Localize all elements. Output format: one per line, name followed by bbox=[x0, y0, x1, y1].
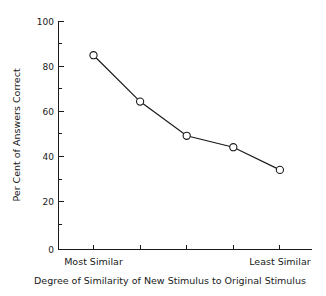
x-tick-label-most-similar: Most Similar bbox=[64, 256, 123, 267]
y-tick-label-20: 20 bbox=[43, 197, 55, 207]
data-point-3 bbox=[183, 132, 190, 139]
data-point-5 bbox=[276, 166, 283, 173]
line-chart: 100 80 60 40 20 0 Most Similar Least Sim… bbox=[0, 0, 326, 296]
y-tick-label-80: 80 bbox=[43, 62, 55, 72]
data-point-1 bbox=[90, 52, 97, 59]
figure-container: 100 80 60 40 20 0 Most Similar Least Sim… bbox=[0, 0, 326, 296]
x-tick-label-least-similar: Least Similar bbox=[249, 256, 311, 267]
y-tick-label-0: 0 bbox=[48, 245, 54, 255]
y-tick-label-60: 60 bbox=[43, 107, 55, 117]
data-point-2 bbox=[137, 98, 144, 105]
y-tick-label-100: 100 bbox=[37, 17, 54, 27]
y-tick-label-40: 40 bbox=[43, 152, 55, 162]
x-axis-title: Degree of Similarity of New Stimulus to … bbox=[34, 275, 306, 286]
data-point-4 bbox=[230, 144, 237, 151]
y-axis-title: Per Cent of Answers Correct bbox=[11, 68, 22, 201]
